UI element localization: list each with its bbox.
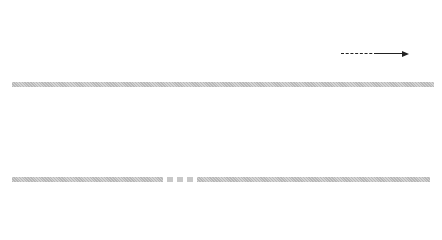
continuation-arrow-dashed	[341, 53, 377, 54]
arrow-right-icon	[402, 51, 409, 57]
top-bar	[12, 82, 434, 87]
bottom-right-bar	[197, 177, 430, 182]
bottom-left-bar	[12, 177, 163, 182]
continuation-arrow-line	[377, 53, 402, 54]
bar-break-dash	[177, 177, 183, 182]
bar-break-dash	[167, 177, 173, 182]
bar-break-dash	[187, 177, 193, 182]
